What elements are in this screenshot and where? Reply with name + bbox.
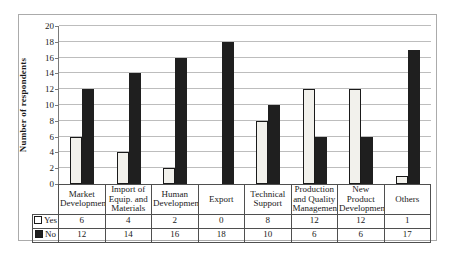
- y-tick-label: 16: [30, 53, 54, 63]
- value-cell-yes-others: 1: [384, 214, 431, 228]
- category-header-human-development: Human Development: [152, 185, 199, 215]
- value-cell-yes-human-development: 2: [152, 214, 199, 228]
- table-row-yes: Yes6420812121: [33, 214, 431, 228]
- gridline: [59, 57, 431, 58]
- value-cell-no-others: 17: [384, 228, 431, 242]
- bar-yes-production-and-quality-management: [303, 89, 315, 184]
- category-header-export: Export: [198, 185, 245, 215]
- legend-marker-yes-icon: [34, 216, 42, 224]
- gridline: [59, 72, 431, 73]
- value-cell-yes-export: 0: [198, 214, 245, 228]
- y-tick-label: 4: [30, 147, 54, 157]
- category-header-technical-support: Technical Support: [245, 185, 292, 215]
- value-cell-no-technical-support: 10: [245, 228, 292, 242]
- y-tick-mark: [55, 42, 58, 43]
- y-tick-mark: [55, 121, 58, 122]
- value-cell-yes-new-product-development: 12: [338, 214, 385, 228]
- table-corner-cell: [33, 185, 59, 215]
- value-cell-no-import-of-equip-and-materials: 14: [105, 228, 152, 242]
- category-header-new-product-development: New Product Development: [338, 185, 385, 215]
- bar-no-export: [222, 42, 234, 184]
- y-tick-label: 10: [30, 100, 54, 110]
- table-header-row: Market DevelopmentImport of Equip. and M…: [33, 185, 431, 215]
- category-header-production-and-quality-management: Production and Quality Management: [291, 185, 338, 215]
- category-header-import-of-equip-and-materials: Import of Equip. and Materials: [105, 185, 152, 215]
- gridline: [59, 120, 431, 121]
- gridline: [59, 104, 431, 105]
- y-tick-label: 12: [30, 84, 54, 94]
- bar-no-import-of-equip-and-materials: [129, 73, 141, 184]
- plot-area: [58, 26, 431, 185]
- bar-no-market-development: [82, 89, 94, 184]
- y-tick-mark: [55, 137, 58, 138]
- bar-yes-import-of-equip-and-materials: [117, 152, 129, 184]
- value-cell-yes-import-of-equip-and-materials: 4: [105, 214, 152, 228]
- bar-no-human-development: [175, 58, 187, 184]
- y-tick-mark: [55, 105, 58, 106]
- bar-yes-market-development: [70, 137, 82, 184]
- y-tick-mark: [55, 89, 58, 90]
- y-tick-mark: [55, 58, 58, 59]
- bar-yes-technical-support: [256, 121, 268, 184]
- y-tick-label: 14: [30, 68, 54, 78]
- bar-yes-others: [396, 176, 408, 184]
- y-tick-mark: [55, 168, 58, 169]
- data-table: Market DevelopmentImport of Equip. and M…: [32, 184, 431, 243]
- gridline: [59, 151, 431, 152]
- chart-figure: Number of respondents 02468101214161820 …: [18, 14, 437, 241]
- y-tick-mark: [55, 73, 58, 74]
- value-cell-no-new-product-development: 6: [338, 228, 385, 242]
- value-cell-no-market-development: 12: [59, 228, 106, 242]
- value-cell-no-export: 18: [198, 228, 245, 242]
- value-cell-yes-technical-support: 8: [245, 214, 292, 228]
- figure-canvas: Number of respondents 02468101214161820 …: [0, 0, 457, 255]
- bar-yes-new-product-development: [349, 89, 361, 184]
- value-cell-yes-production-and-quality-management: 12: [291, 214, 338, 228]
- bar-no-technical-support: [268, 105, 280, 184]
- bar-no-new-product-development: [361, 137, 373, 184]
- y-tick-label: 8: [30, 116, 54, 126]
- category-header-market-development: Market Development: [59, 185, 106, 215]
- bar-no-production-and-quality-management: [315, 137, 327, 184]
- legend-label-no: No: [45, 229, 56, 239]
- y-tick-label: 2: [30, 163, 54, 173]
- legend-label-yes: Yes: [44, 215, 57, 225]
- y-tick-mark: [55, 152, 58, 153]
- y-tick-label: 20: [30, 21, 54, 31]
- bar-no-others: [408, 50, 420, 184]
- value-cell-no-production-and-quality-management: 6: [291, 228, 338, 242]
- y-tick-label: 6: [30, 132, 54, 142]
- legend-cell-yes: Yes: [33, 214, 59, 228]
- value-cell-no-human-development: 16: [152, 228, 199, 242]
- y-tick-label: 18: [30, 37, 54, 47]
- gridline: [59, 25, 431, 26]
- gridline: [59, 88, 431, 89]
- y-tick-mark: [55, 26, 58, 27]
- gridline: [59, 136, 431, 137]
- gridline: [59, 41, 431, 42]
- value-cell-yes-market-development: 6: [59, 214, 106, 228]
- category-header-others: Others: [384, 185, 431, 215]
- legend-cell-no: No: [33, 228, 59, 242]
- table-row-no: No12141618106617: [33, 228, 431, 242]
- gridline: [59, 167, 431, 168]
- y-axis-title: Number of respondents: [17, 25, 29, 185]
- bar-yes-human-development: [163, 168, 175, 184]
- legend-marker-no-icon: [35, 230, 43, 238]
